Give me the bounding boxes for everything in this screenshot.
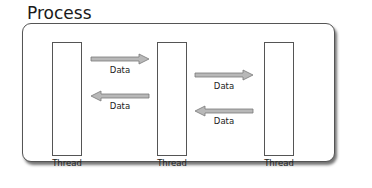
arrow-right-icon	[90, 53, 150, 65]
arrow-4-label: Data	[204, 116, 244, 126]
thread-1-box	[52, 42, 82, 156]
process-title: Process	[27, 3, 92, 23]
thread-2-box	[157, 42, 187, 156]
arrow-2-label: Data	[100, 101, 140, 111]
arrow-3-label: Data	[204, 81, 244, 91]
thread-3-label: Thread	[254, 158, 304, 168]
thread-1-label: Thread	[42, 158, 92, 168]
thread-2-label: Thread	[147, 158, 197, 168]
thread-3-box	[264, 42, 294, 156]
arrow-right-icon	[194, 69, 254, 81]
arrow-1-label: Data	[100, 65, 140, 75]
